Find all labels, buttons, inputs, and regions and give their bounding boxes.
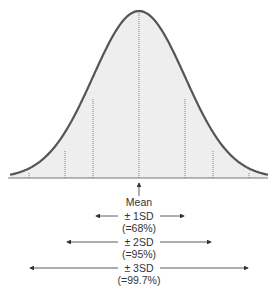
range-3sd-percent: (=99.7%) xyxy=(118,274,161,286)
range-2sd-percent: (=95%) xyxy=(122,248,156,260)
range-1sd-label: ± 1SD (=68%) xyxy=(109,210,169,234)
mean-label: Mean xyxy=(119,196,159,208)
range-2sd-label: ± 2SD (=95%) xyxy=(109,236,169,260)
range-3sd-label: ± 3SD (=99.7%) xyxy=(109,262,169,286)
range-1sd-name: ± 1SD xyxy=(121,210,156,222)
range-1sd-percent: (=68%) xyxy=(122,222,156,234)
range-3sd-name: ± 3SD xyxy=(121,262,156,274)
range-2sd-name: ± 2SD xyxy=(121,236,156,248)
